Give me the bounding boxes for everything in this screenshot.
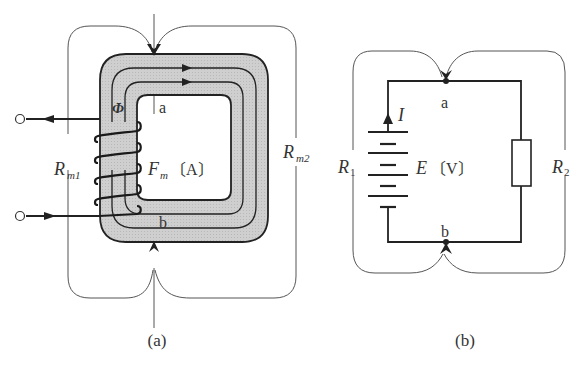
node-arrow-b: [440, 243, 452, 254]
coil-terminal-top: [16, 115, 101, 124]
coil-terminal-bottom: [16, 212, 101, 221]
svg-text:E: E: [415, 158, 427, 178]
svg-text:〔V〕: 〔V〕: [430, 160, 474, 177]
svg-text:2: 2: [564, 166, 570, 178]
panel-a-magnetic-circuit: Φ a b F m 〔A〕 R m1 R m2 (a): [16, 14, 310, 350]
svg-text:m1: m1: [67, 169, 80, 181]
svg-text:R: R: [282, 142, 294, 162]
current-arrow: [383, 113, 393, 124]
node-b-label: b: [159, 214, 167, 231]
svg-text:R: R: [551, 157, 563, 177]
svg-text:〔A〕: 〔A〕: [170, 161, 214, 178]
battery: [368, 132, 408, 207]
current-label: I: [397, 105, 405, 125]
panel-b-electric-circuit: a b I E 〔V〕 R 1 R 2 (b): [337, 51, 570, 350]
mmf-label: F m 〔A〕: [147, 159, 214, 181]
reluctance-rm1-label: R m1: [53, 159, 80, 181]
resistance-r1-label: R 1: [337, 157, 356, 178]
caption-b: (b): [455, 331, 475, 350]
node-b-label-b: b: [441, 223, 449, 240]
resistance-r2-label: R 2: [551, 157, 570, 178]
diagram-canvas: Φ a b F m 〔A〕 R m1 R m2 (a): [0, 0, 579, 368]
load-resistor: [512, 140, 531, 186]
caption-a: (a): [148, 331, 167, 350]
node-a-label-b: a: [441, 94, 448, 111]
flux-label: Φ: [112, 100, 124, 116]
reluctance-rm2-label: R m2: [282, 142, 310, 164]
svg-text:R: R: [337, 157, 349, 177]
emf-label: E 〔V〕: [415, 158, 474, 178]
svg-text:m: m: [160, 169, 168, 181]
svg-text:F: F: [147, 159, 160, 179]
svg-text:1: 1: [350, 166, 356, 178]
node-a-label: a: [159, 99, 166, 116]
svg-text:R: R: [53, 159, 65, 179]
svg-text:m2: m2: [296, 152, 310, 164]
